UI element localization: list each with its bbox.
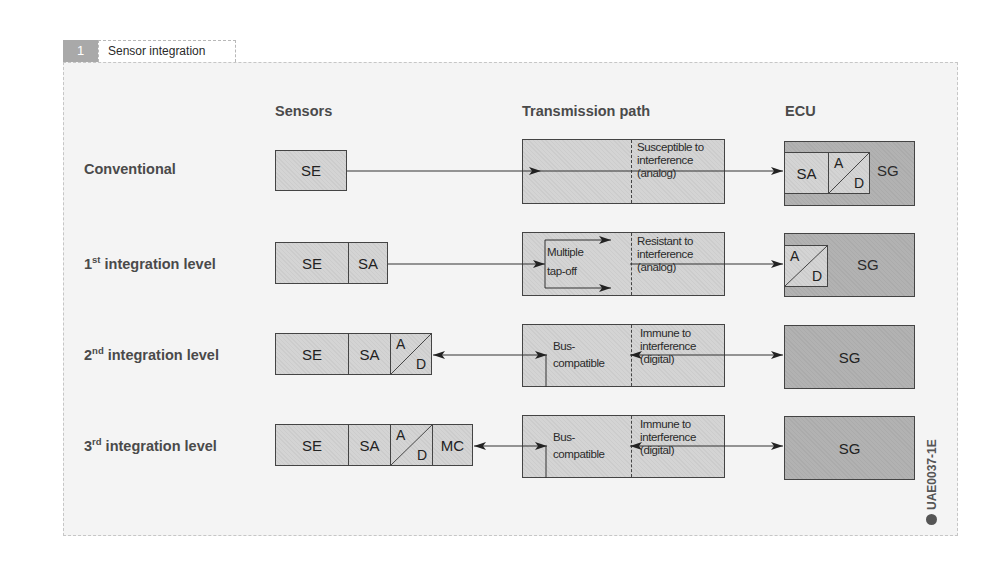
ecu-box-conventional: SA AD SG (784, 141, 915, 206)
column-header-ecu: ECU (785, 103, 816, 119)
sensor-cell-sa: SA (348, 243, 387, 283)
row-label-level-1: 1st integration level (84, 254, 216, 272)
column-header-sensors: Sensors (275, 103, 332, 119)
row-label-conventional: Conventional (84, 161, 176, 177)
transmission-box-level-1: Multiple tap-off Resistant to interferen… (522, 232, 725, 296)
row-label-level-3: 3rd integration level (84, 436, 217, 454)
sensor-box-level-2: SE SA AD (275, 333, 432, 375)
sensor-cell-se: SE (276, 334, 348, 374)
sensor-cell-se: SE (276, 151, 346, 190)
sensor-cell-ad: AD (390, 425, 432, 465)
ecu-cell-sg: SG (785, 326, 914, 388)
ecu-inner-sa-ad: SA AD (784, 152, 870, 194)
transmission-desc-conventional: Susceptible to interference (analog) (637, 141, 704, 180)
transmission-divider (631, 325, 632, 386)
transmission-mode-level-3: Bus- compatible (553, 431, 605, 461)
transmission-divider (631, 416, 632, 477)
transmission-box-level-2: Bus- compatible Immune to interference (… (522, 324, 725, 387)
transmission-divider (631, 140, 632, 203)
ecu-cell-sg: SG (857, 256, 879, 273)
ecu-cell-ad: AD (784, 245, 828, 287)
transmission-mode-level-2: Bus- compatible (553, 340, 605, 370)
row-label-level-2: 2nd integration level (84, 345, 219, 363)
sensor-cell-se: SE (276, 243, 348, 283)
bosch-logo-icon (927, 514, 938, 525)
ecu-cell-sg: SG (877, 162, 899, 179)
sensor-cell-ad: AD (390, 334, 431, 374)
transmission-desc-level-1: Resistant to interference (analog) (637, 235, 693, 274)
transmission-box-level-3: Bus- compatible Immune to interference (… (522, 415, 725, 478)
ecu-cell-sa: SA (785, 153, 828, 193)
transmission-divider (631, 233, 632, 295)
transmission-desc-level-2: Immune to interference (digital) (640, 327, 696, 366)
figure-number: 1 (63, 40, 98, 62)
sensor-box-level-1: SE SA (275, 242, 388, 284)
column-header-transmission: Transmission path (522, 103, 650, 119)
ecu-box-level-1: AD SG (784, 233, 915, 297)
sensor-box-level-3: SE SA AD MC (275, 424, 473, 466)
sensor-box-conventional: SE (275, 150, 347, 191)
transmission-desc-level-3: Immune to interference (digital) (640, 418, 696, 457)
transmission-mode-level-1: Multiple tap-off (547, 246, 583, 278)
sensor-cell-se: SE (276, 425, 348, 465)
ecu-cell-sg: SG (785, 417, 914, 479)
sensor-cell-mc: MC (432, 425, 472, 465)
transmission-box-conventional: Susceptible to interference (analog) (522, 139, 725, 204)
sensor-cell-sa: SA (348, 425, 390, 465)
ecu-box-level-2: SG (784, 325, 915, 389)
sensor-cell-sa: SA (348, 334, 390, 374)
figure-title: Sensor integration levels (98, 40, 236, 62)
ecu-cell-ad: AD (828, 153, 869, 193)
ecu-box-level-3: SG (784, 416, 915, 480)
figure-code: UAE0037-1E (922, 400, 942, 525)
